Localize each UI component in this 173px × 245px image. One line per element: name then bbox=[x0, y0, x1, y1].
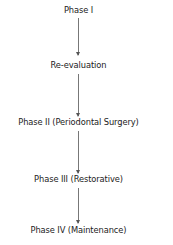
clipped-text-line: . . . . . . . . . . . . . . . . bbox=[2, 239, 171, 245]
arrow-down-icon bbox=[78, 188, 79, 223]
arrow-down-icon bbox=[78, 18, 79, 55]
node-phase-2: Phase II (Periodontal Surgery) bbox=[0, 117, 157, 128]
node-phase-3: Phase III (Restorative) bbox=[0, 174, 157, 185]
node-phase-1: Phase I bbox=[0, 5, 157, 16]
node-re-evaluation: Re-evaluation bbox=[0, 60, 157, 71]
arrow-down-icon bbox=[78, 131, 79, 173]
arrow-down-icon bbox=[78, 74, 79, 116]
node-phase-4: Phase IV (Maintenance) bbox=[0, 225, 157, 236]
